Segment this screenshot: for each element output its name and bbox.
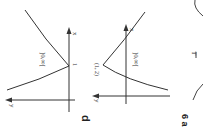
- graph-1-domain-label: ]0,∞[: [39, 52, 47, 68]
- graph-1-x-label: x: [71, 32, 79, 36]
- rotated-textbook-page: x y 1 ]0,∞[ x y (1, 2) ]0,∞[ T d 6 a: [0, 0, 203, 133]
- graph-2-y-label: y: [93, 99, 101, 103]
- graph-1: x y 1 ]0,∞[: [5, 10, 79, 112]
- graph-3-tick-label: T: [190, 51, 198, 56]
- graph-2-domain-label: ]0,∞[: [132, 52, 140, 68]
- graph-2: x y (1, 2) ]0,∞[: [92, 12, 170, 104]
- figure-graphs: x y 1 ]0,∞[ x y (1, 2) ]0,∞[ T d 6 a: [0, 0, 203, 133]
- graph-2-point-label: (1, 2): [93, 63, 100, 76]
- graph-1-y-label: y: [8, 104, 16, 108]
- exercise-label: 6 a: [180, 114, 190, 128]
- part-label-d: d: [80, 115, 92, 122]
- graph-1-tick-label: 1: [72, 63, 78, 66]
- graph-2-x-label: x: [128, 28, 136, 32]
- graph-3-fragment: T: [190, 0, 203, 100]
